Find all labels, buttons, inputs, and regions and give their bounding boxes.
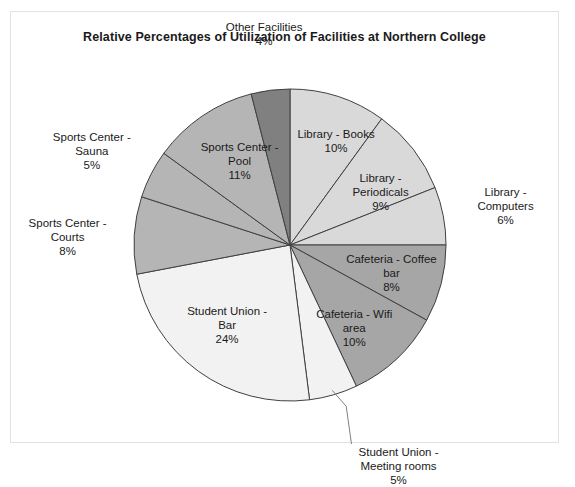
- pie-slice-value: 8%: [346, 280, 437, 294]
- pie-slice-name: Sports Center -: [53, 130, 131, 144]
- pie-leader-lines-group: [332, 390, 352, 444]
- pie-slice-name: Student Union -: [359, 445, 439, 459]
- pie-slice-label: Cafeteria - Coffeebar8%: [346, 252, 437, 294]
- pie-slice-name: Student Union -: [187, 304, 267, 318]
- pie-slice-name: Computers: [477, 199, 533, 213]
- pie-slice-label: Student Union -Meeting rooms5%: [359, 445, 439, 487]
- pie-slice-value: 4%: [226, 34, 303, 48]
- pie-slice-name: Sauna: [53, 144, 131, 158]
- pie-slice-label: Sports Center -Pool11%: [201, 140, 279, 182]
- pie-slice-value: 10%: [297, 141, 374, 155]
- chart-frame: Relative Percentages of Utilization of F…: [10, 11, 559, 443]
- pie-slice-label: Sports Center -Sauna5%: [53, 130, 131, 172]
- pie-slice-label: Library -Periodicals9%: [352, 171, 408, 213]
- pie-slices-group: [134, 89, 446, 401]
- pie-slice-value: 11%: [201, 168, 279, 182]
- pie-slice-value: 8%: [29, 244, 107, 258]
- pie-slice-name: Library -: [477, 185, 533, 199]
- pie-slice-name: Library - Books: [297, 127, 374, 141]
- pie-leader-line: [332, 390, 352, 444]
- pie-slice-name: Periodicals: [352, 185, 408, 199]
- pie-slice-value: 5%: [359, 473, 439, 487]
- pie-slice-value: 5%: [53, 158, 131, 172]
- pie-slice-name: Pool: [201, 154, 279, 168]
- pie-slice-label: Cafeteria - Wifiarea10%: [316, 307, 392, 349]
- pie-slice-name: Sports Center -: [29, 216, 107, 230]
- pie-slice-name: bar: [346, 266, 437, 280]
- pie-slice-label: Other Facilities4%: [226, 20, 303, 48]
- pie-slice-name: Meeting rooms: [359, 459, 439, 473]
- pie-slice-label: Student Union -Bar24%: [187, 304, 267, 346]
- pie-slice-value: 9%: [352, 199, 408, 213]
- pie-slice-name: Sports Center -: [201, 140, 279, 154]
- pie-slice-value: 10%: [316, 335, 392, 349]
- pie-slice-label: Library -Computers6%: [477, 185, 533, 227]
- pie-slice-name: Library -: [352, 171, 408, 185]
- pie-slice-value: 24%: [187, 332, 267, 346]
- pie-slice-name: Cafeteria - Coffee: [346, 252, 437, 266]
- pie-slice-name: Cafeteria - Wifi: [316, 307, 392, 321]
- pie-slice-name: Courts: [29, 230, 107, 244]
- pie-slice-value: 6%: [477, 213, 533, 227]
- pie-slice-name: Other Facilities: [226, 20, 303, 34]
- pie-slice-label: Library - Books10%: [297, 127, 374, 155]
- pie-slice-name: Bar: [187, 318, 267, 332]
- pie-slice-label: Sports Center -Courts8%: [29, 216, 107, 258]
- pie-slice-name: area: [316, 321, 392, 335]
